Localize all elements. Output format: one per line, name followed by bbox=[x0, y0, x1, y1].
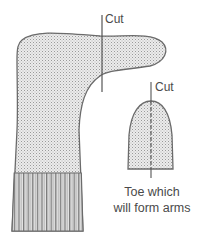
toe-piece bbox=[128, 82, 173, 178]
cut-label-toe: Cut bbox=[155, 80, 174, 94]
caption-line-2: will form arms bbox=[97, 200, 207, 216]
cut-label-top: Cut bbox=[105, 12, 124, 26]
ribbed-cuff bbox=[12, 173, 83, 231]
caption-line-1: Toe which bbox=[97, 184, 207, 200]
